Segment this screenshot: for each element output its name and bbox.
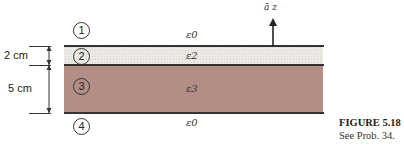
unit-vector-label: ā z <box>264 2 277 12</box>
region-3-marker: 3 <box>73 78 90 95</box>
boundary-3-4 <box>64 112 324 114</box>
boundary-1-2 <box>64 45 324 47</box>
arrow-up-icon <box>266 18 280 46</box>
thickness-region-3: 5 cm <box>8 82 32 94</box>
thickness-region-2: 2 cm <box>4 49 28 61</box>
region-2-permittivity: ε2 <box>186 50 198 61</box>
figure-caption-subtitle: See Prob. 34. <box>339 130 395 141</box>
figure-caption-title: FIGURE 5.18 <box>339 117 401 128</box>
region-1-permittivity: ε0 <box>186 29 198 40</box>
dimension-arrows <box>44 46 54 114</box>
region-4-permittivity: ε0 <box>186 117 198 128</box>
region-4-marker: 4 <box>73 118 90 135</box>
region-1-marker: 1 <box>73 22 90 39</box>
region-3-permittivity: ε3 <box>186 83 198 94</box>
region-2-marker: 2 <box>73 48 90 65</box>
boundary-2-3 <box>64 64 324 66</box>
